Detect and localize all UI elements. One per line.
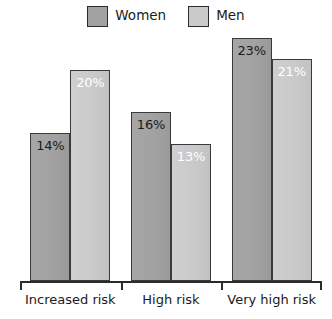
bar-value-label: 13% xyxy=(172,150,210,163)
bar-value-label: 16% xyxy=(132,118,170,131)
category-label: Very high risk xyxy=(221,293,322,306)
bar-men-high-risk: 13% xyxy=(171,144,211,281)
axis-tick xyxy=(121,283,123,290)
category-label: High risk xyxy=(121,293,222,306)
axis-baseline xyxy=(20,281,322,283)
axis-tick xyxy=(20,283,22,290)
bar-women-very-high-risk: 23% xyxy=(232,38,272,281)
bar-women-high-risk: 16% xyxy=(131,112,171,281)
axis-tick xyxy=(221,283,223,290)
axis-tick xyxy=(320,283,322,290)
bar-value-label: 21% xyxy=(273,65,311,78)
bar-women-increased-risk: 14% xyxy=(30,133,70,281)
bar-value-label: 20% xyxy=(71,76,109,89)
bar-value-label: 23% xyxy=(233,44,271,57)
bar-men-increased-risk: 20% xyxy=(70,70,110,281)
bar-chart: Women Men 14%20%Increased risk16%13%High… xyxy=(0,0,332,319)
plot-area: 14%20%Increased risk16%13%High risk23%21… xyxy=(0,0,332,319)
category-label: Increased risk xyxy=(20,293,121,306)
bar-men-very-high-risk: 21% xyxy=(272,59,312,281)
bar-value-label: 14% xyxy=(31,139,69,152)
